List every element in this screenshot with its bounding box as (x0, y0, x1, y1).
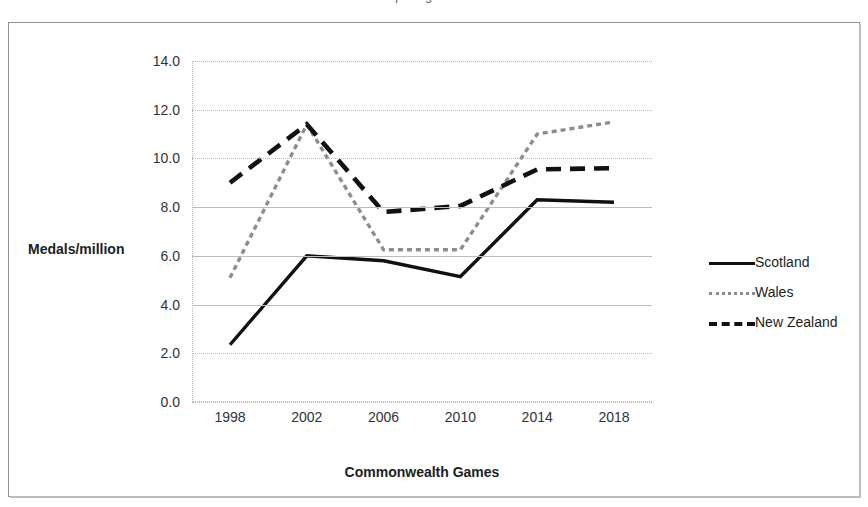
chart-title-clipped: Sporting Success (0, 0, 868, 9)
y-axis-tick-label: 10.0 (134, 150, 180, 166)
x-axis-tick-label: 2002 (272, 409, 342, 425)
gridline (192, 61, 652, 62)
x-axis-tick-label: 2010 (425, 409, 495, 425)
gridline (192, 353, 652, 354)
x-axis-title: Commonwealth Games (192, 464, 652, 480)
gridline (192, 158, 652, 159)
data-series-layer (192, 61, 652, 402)
dotted-line-icon (709, 286, 755, 298)
legend-item[interactable]: Wales (709, 277, 865, 307)
y-axis-tick-label: 8.0 (134, 199, 180, 215)
legend-item[interactable]: New Zealand (709, 307, 865, 337)
gridline (192, 256, 652, 257)
gridline (192, 110, 652, 111)
solid-line-icon (709, 256, 755, 268)
chart-title-text: Sporting Success (0, 0, 868, 3)
y-axis-line (192, 61, 193, 402)
plot-area (192, 61, 652, 402)
gridline (192, 207, 652, 208)
y-axis-tick-label: 14.0 (134, 53, 180, 69)
chart-figure-frame: 14.012.010.08.06.04.02.00.0 199820022006… (8, 22, 860, 497)
series-line-scotland (230, 200, 614, 345)
legend-item[interactable]: Scotland (709, 247, 865, 277)
dashed-line-icon (709, 316, 755, 328)
y-axis-tick-label: 0.0 (134, 394, 180, 410)
x-axis-tick-label: 1998 (195, 409, 265, 425)
x-axis-tick-label: 2006 (349, 409, 419, 425)
x-axis-ticks: 199820022006201020142018 (192, 409, 652, 433)
y-axis-title: Medals/million (28, 241, 124, 257)
y-axis-tick-label: 12.0 (134, 102, 180, 118)
x-axis-tick-label: 2018 (579, 409, 649, 425)
legend-item-label: New Zealand (755, 314, 838, 330)
gridline (192, 305, 652, 306)
legend-item-label: Scotland (755, 254, 809, 270)
y-axis-tick-label: 6.0 (134, 248, 180, 264)
gridline (192, 402, 652, 403)
y-axis-tick-label: 2.0 (134, 345, 180, 361)
x-axis-tick-label: 2014 (502, 409, 572, 425)
chart-legend: ScotlandWalesNew Zealand (709, 247, 865, 337)
legend-item-label: Wales (755, 284, 793, 300)
y-axis-tick-label: 4.0 (134, 297, 180, 313)
